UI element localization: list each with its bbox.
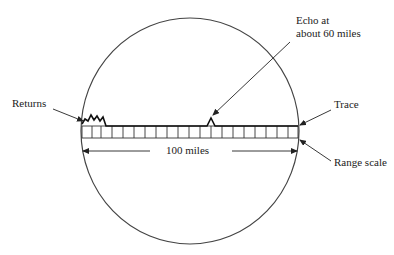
- distance-label: 100 miles: [166, 144, 209, 157]
- trace-pointer: [300, 110, 331, 125]
- echo-label-line1: Echo at: [296, 14, 329, 27]
- returns-label: Returns: [12, 97, 46, 110]
- range-scale-pointer: [300, 140, 331, 161]
- range-scale-label: Range scale: [334, 156, 387, 169]
- returns-pointer: [53, 109, 83, 121]
- trace-label: Trace: [334, 98, 359, 111]
- echo-pointer: [213, 42, 290, 115]
- echo-label-line2: about 60 miles: [296, 27, 361, 40]
- range-scale: [82, 126, 298, 138]
- trace-line: [82, 115, 298, 126]
